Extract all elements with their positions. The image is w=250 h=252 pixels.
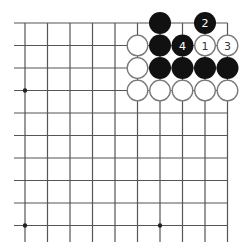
black-stone: 4 (172, 35, 194, 57)
move-number-label: 3 (224, 40, 231, 53)
black-stone-disc (149, 35, 171, 57)
black-stone (217, 57, 239, 79)
black-stone-disc (172, 57, 194, 79)
white-stone: 3 (217, 35, 238, 56)
black-stone-disc (194, 57, 216, 79)
white-stone-disc (195, 80, 216, 101)
move-number-label: 4 (179, 40, 186, 53)
black-stone (149, 35, 171, 57)
white-stone-disc (172, 80, 193, 101)
white-stone-disc (127, 58, 148, 79)
black-stone (149, 12, 171, 34)
move-number-label: 2 (202, 17, 209, 30)
white-stone (150, 80, 171, 101)
black-stone-disc (149, 12, 171, 34)
white-stone (127, 58, 148, 79)
black-stone: 2 (194, 12, 216, 34)
star-point (158, 223, 162, 227)
white-stone (127, 80, 148, 101)
white-stone-disc (217, 80, 238, 101)
white-stone (217, 80, 238, 101)
black-stone-disc (149, 57, 171, 79)
star-point (23, 88, 27, 92)
black-stone (149, 57, 171, 79)
white-stone-disc (150, 80, 171, 101)
go-board: 2413 (0, 0, 250, 252)
white-stone-disc (127, 80, 148, 101)
move-number-label: 1 (202, 40, 209, 53)
white-stone-disc (127, 35, 148, 56)
black-stone (172, 57, 194, 79)
white-stone (195, 80, 216, 101)
white-stone: 1 (195, 35, 216, 56)
black-stone-disc (217, 57, 239, 79)
black-stone (194, 57, 216, 79)
board-grid (14, 23, 228, 242)
white-stone (172, 80, 193, 101)
star-point (23, 223, 27, 227)
white-stone (127, 35, 148, 56)
